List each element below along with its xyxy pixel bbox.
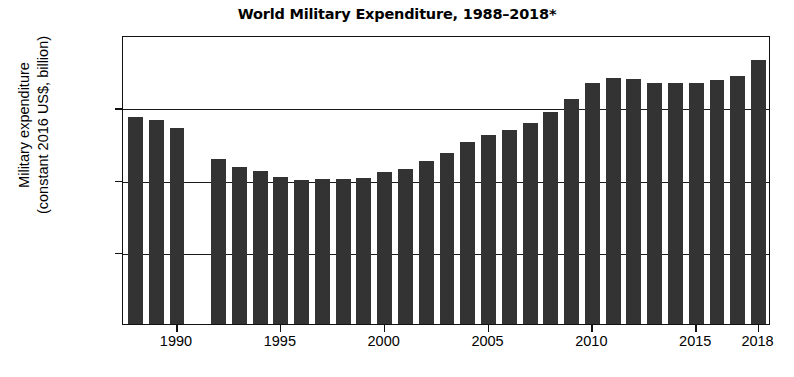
x-tick-label-2000: 2000 (354, 333, 414, 349)
x-tick-label-2005: 2005 (458, 333, 518, 349)
x-tick-mark-2018 (758, 325, 760, 332)
x-axis: 1990199520002005201020152018 (0, 0, 794, 377)
x-tick-mark-1990 (176, 325, 178, 332)
x-tick-label-2018: 2018 (728, 333, 788, 349)
x-tick-mark-2005 (488, 325, 490, 332)
x-tick-mark-2010 (591, 325, 593, 332)
x-tick-mark-2000 (384, 325, 386, 332)
x-tick-mark-1995 (280, 325, 282, 332)
x-tick-label-1995: 1995 (250, 333, 310, 349)
x-tick-label-2015: 2015 (665, 333, 725, 349)
chart-figure: World Military Expenditure, 1988–2018* M… (0, 0, 794, 377)
x-tick-label-2010: 2010 (561, 333, 621, 349)
x-tick-mark-2015 (695, 325, 697, 332)
x-tick-label-1990: 1990 (146, 333, 206, 349)
